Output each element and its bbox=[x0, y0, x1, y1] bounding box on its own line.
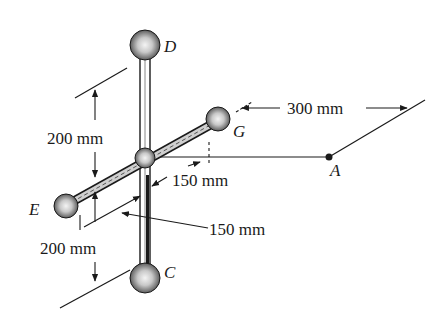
dim-label-200-top: 200 mm bbox=[47, 130, 103, 147]
top-extension-line bbox=[75, 68, 127, 98]
diagram-svg bbox=[0, 0, 447, 324]
dim-label-150-e: 150 mm bbox=[209, 221, 265, 238]
dim-label-200-bottom: 200 mm bbox=[40, 240, 96, 257]
sphere-g bbox=[206, 107, 230, 131]
dim-label-150-g: 150 mm bbox=[172, 172, 228, 189]
label-c: C bbox=[164, 264, 175, 281]
point-a-dot bbox=[326, 154, 333, 161]
label-a: A bbox=[330, 162, 340, 179]
dim-label-300: 300 mm bbox=[287, 100, 343, 117]
plane-lines bbox=[60, 68, 425, 308]
hub bbox=[135, 148, 155, 168]
dim-bottom-200 bbox=[80, 192, 95, 281]
label-d: D bbox=[164, 38, 176, 55]
sphere-d bbox=[130, 30, 160, 60]
diagram-canvas: D C E G A 200 mm 200 mm 150 mm 150 mm 30… bbox=[0, 0, 447, 324]
sphere-c bbox=[130, 263, 160, 293]
sphere-e bbox=[54, 194, 78, 218]
label-g: G bbox=[233, 123, 245, 140]
label-e: E bbox=[29, 201, 39, 218]
